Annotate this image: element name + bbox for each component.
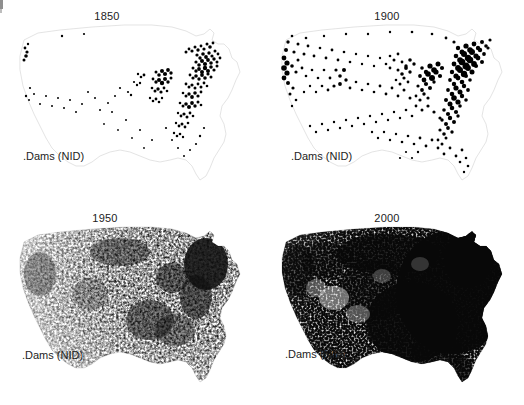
us-outline-2000	[262, 202, 524, 405]
legend-label-1900: .Dams (NID)	[291, 150, 352, 163]
panel-1950: 1950	[0, 202, 262, 405]
dam-maps-figure: 1850	[0, 0, 524, 405]
map-1850	[0, 0, 262, 202]
panel-2000: 2000	[262, 202, 524, 405]
panel-1900: 1900	[262, 0, 524, 202]
map-1900	[262, 0, 524, 202]
map-1950	[0, 202, 262, 405]
scan-artifact-secondary-icon	[0, 9, 2, 13]
legend-label-1850: .Dams (NID)	[23, 150, 84, 163]
legend-label-2000: .Dams (NID)	[285, 348, 346, 361]
legend-label-1950: .Dams (NID)	[22, 349, 83, 362]
us-outline-1950	[0, 202, 262, 405]
dam-dots-1850	[0, 0, 262, 202]
dam-dots-1900	[262, 0, 524, 202]
map-2000	[262, 202, 524, 405]
scan-artifact-icon	[0, 0, 3, 9]
panel-1850: 1850	[0, 0, 262, 202]
